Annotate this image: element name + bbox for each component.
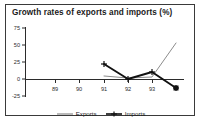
x-axis-label-93: 93	[149, 86, 155, 92]
y-axis-label-25: 25	[8, 59, 20, 65]
x-axis-label-91: 91	[101, 86, 107, 92]
x-axis-label-90: 90	[76, 86, 82, 92]
y-axis-label-50: 50	[8, 42, 20, 48]
series-line-imports	[104, 64, 176, 88]
legend-label-exports: Exports	[76, 110, 97, 117]
x-axis-label-92: 92	[125, 86, 131, 92]
legend-label-imports: Imports	[125, 110, 146, 117]
chart-figure: Growth rates of exports and imports (%)	[0, 0, 202, 131]
x-axis-label-89: 89	[52, 86, 58, 92]
series-line-exports	[104, 43, 176, 78]
chart-legend: Exports Imports	[0, 107, 202, 120]
y-axis-label-75: 75	[8, 25, 20, 31]
line-swatch-gray-icon	[57, 110, 73, 118]
series-endpoint-imports	[174, 86, 179, 91]
line-marker-swatch-black-icon	[106, 110, 122, 118]
legend-entry-exports: Exports	[57, 110, 97, 118]
legend-entry-imports: Imports	[106, 110, 146, 118]
y-axis-label-neg25: -25	[6, 93, 20, 99]
y-axis-label-0: 0	[8, 76, 20, 82]
